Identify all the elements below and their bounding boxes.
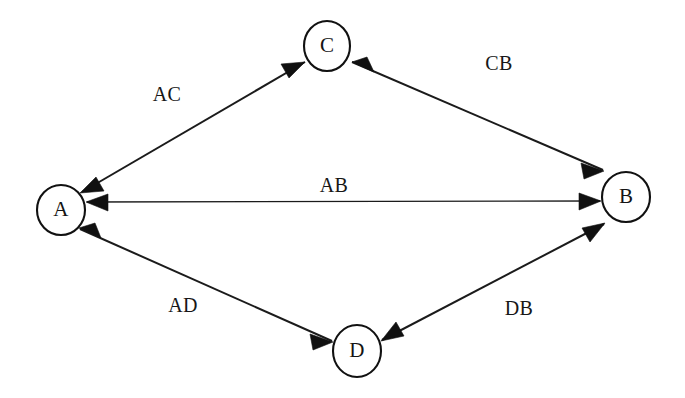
edge-ac-arrowhead-to-a	[80, 177, 104, 193]
edge-ab-arrowhead-to-a	[86, 194, 108, 211]
edge-db-line	[382, 224, 604, 340]
edge-cb-label: CB	[485, 52, 512, 74]
node-a-label: A	[53, 197, 69, 221]
node-c-label: C	[320, 33, 334, 57]
graph-canvas: AC CB AB AD DB	[0, 0, 685, 398]
edge-ad-line	[80, 229, 332, 341]
edge-ab-label: AB	[320, 174, 349, 196]
edge-db-label: DB	[505, 297, 534, 319]
edge-db[interactable]: DB	[381, 223, 605, 341]
node-d-label: D	[349, 338, 364, 362]
edge-ac-label: AC	[153, 83, 182, 105]
graph-diagram: AC CB AB AD DB	[0, 0, 685, 398]
edge-ac-line	[82, 62, 305, 192]
edge-ab-line	[87, 201, 600, 202]
edge-ad-label: AD	[168, 294, 198, 316]
node-c[interactable]: C	[304, 21, 350, 71]
node-b[interactable]: B	[602, 172, 650, 222]
node-d[interactable]: D	[333, 325, 381, 377]
node-b-label: B	[619, 184, 633, 208]
edge-ab[interactable]: AB	[86, 174, 601, 211]
edge-ac-arrowhead-to-c	[281, 62, 305, 78]
edge-ad[interactable]: AD	[79, 223, 333, 350]
node-a[interactable]: A	[37, 185, 85, 235]
edge-ab-arrowhead-to-b	[579, 193, 601, 210]
edge-db-arrowhead-to-b	[582, 223, 605, 242]
edge-cb[interactable]: CB	[352, 52, 604, 179]
edge-db-arrowhead-to-d	[381, 322, 404, 341]
edge-ac[interactable]: AC	[80, 62, 305, 193]
edge-cb-line	[352, 62, 603, 170]
